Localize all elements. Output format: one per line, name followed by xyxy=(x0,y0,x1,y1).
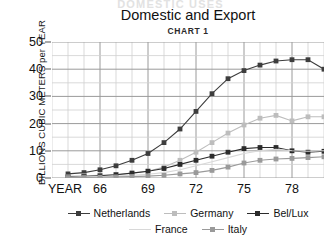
legend-swatch-icon xyxy=(247,209,269,218)
plot-area: 01020304050 6669727578 YEAR xyxy=(52,42,324,178)
y-tick-label: 10 xyxy=(29,144,43,158)
x-tick-label: 75 xyxy=(237,182,251,196)
legend-label: Bel/Lux xyxy=(273,207,308,219)
y-tick-mark xyxy=(45,42,51,43)
legend-label: France xyxy=(155,223,188,235)
legend-item-netherlands[interactable]: Netherlands xyxy=(68,207,151,219)
x-tick-label: 69 xyxy=(141,182,155,196)
legend-swatch-icon xyxy=(202,225,224,234)
legend-item-germany[interactable]: Germany xyxy=(164,207,233,219)
y-tick-label: 20 xyxy=(29,117,43,131)
legend-label: Germany xyxy=(190,207,233,219)
legend-item-italy[interactable]: Italy xyxy=(202,223,247,235)
legend-swatch-icon xyxy=(68,209,90,218)
chart-title: Domestic and Export xyxy=(52,7,324,23)
x-axis-label: YEAR xyxy=(48,182,82,196)
y-tick-mark xyxy=(45,69,51,70)
y-tick-label: 0 xyxy=(36,171,43,185)
x-tick-label: 78 xyxy=(285,182,299,196)
y-tick-label: 50 xyxy=(29,35,43,49)
legend-swatch-icon xyxy=(129,225,151,234)
y-tick-mark xyxy=(45,123,51,124)
plot-canvas xyxy=(52,42,324,178)
y-tick-mark xyxy=(45,150,51,151)
legend-label: Netherlands xyxy=(94,207,151,219)
legend-row: NetherlandsGermanyBel/Lux xyxy=(52,205,324,221)
legend-row: FranceItaly xyxy=(52,221,324,237)
chart-legend: NetherlandsGermanyBel/LuxFranceItaly xyxy=(52,205,324,237)
y-tick-mark xyxy=(45,96,51,97)
legend-item-bel-lux[interactable]: Bel/Lux xyxy=(247,207,308,219)
x-tick-label: 72 xyxy=(189,182,203,196)
legend-item-france[interactable]: France xyxy=(129,223,188,235)
y-tick-label: 30 xyxy=(29,89,43,103)
chart-subtitle: CHART 1 xyxy=(52,26,324,36)
x-tick-label: 66 xyxy=(93,182,107,196)
chart-figure: DOMESTIC USES Domestic and Export CHART … xyxy=(0,0,334,243)
y-tick-label: 40 xyxy=(29,62,43,76)
legend-swatch-icon xyxy=(164,209,186,218)
legend-label: Italy xyxy=(228,223,247,235)
y-tick-mark xyxy=(45,178,51,179)
